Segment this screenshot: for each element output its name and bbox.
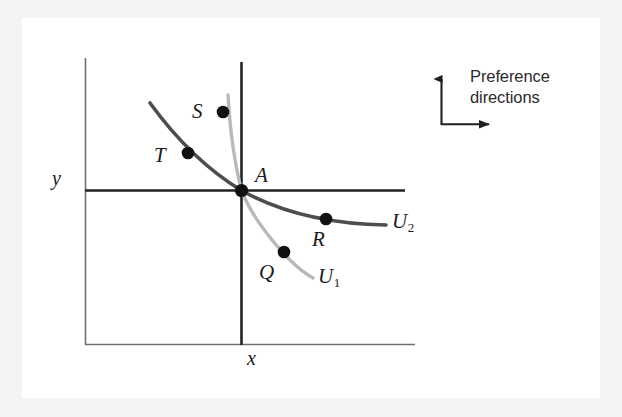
x-axis-label: x	[247, 348, 256, 368]
label-point-r: R	[312, 229, 325, 250]
label-curve-u2-base: U	[392, 209, 407, 233]
point-R	[320, 213, 333, 226]
label-curve-u1: U1	[318, 266, 340, 289]
figure-root: S T A R Q U1 U2 x y Preference direction…	[0, 0, 622, 417]
plot-area	[0, 0, 622, 417]
point-S	[217, 106, 230, 119]
label-point-q: Q	[259, 262, 274, 283]
label-curve-u2: U2	[392, 211, 414, 234]
label-point-t: T	[154, 145, 166, 166]
label-point-s: S	[192, 101, 203, 122]
point-A	[235, 184, 248, 197]
label-curve-u2-subscript: 2	[407, 220, 414, 235]
axis-frame	[85, 58, 415, 345]
label-curve-u1-base: U	[318, 264, 333, 288]
label-point-a: A	[255, 165, 268, 186]
origin-axes	[85, 62, 405, 345]
preference-directions-label: Preference directions	[470, 66, 550, 108]
y-axis-label: y	[52, 168, 61, 188]
curve-u2	[150, 103, 386, 225]
point-Q	[278, 246, 291, 259]
label-curve-u1-subscript: 1	[333, 275, 340, 290]
point-T	[182, 147, 195, 160]
